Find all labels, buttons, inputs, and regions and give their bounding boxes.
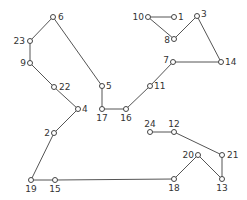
node-2 (52, 131, 57, 136)
node-label-20: 20 (183, 150, 195, 160)
node-label-9: 9 (20, 58, 26, 68)
node-21 (220, 153, 225, 158)
node-label-19: 19 (25, 184, 37, 194)
node-8 (172, 37, 177, 42)
node-13 (220, 177, 225, 182)
node-label-24: 24 (144, 119, 156, 129)
edge-6-23 (30, 17, 53, 41)
node-label-4: 4 (82, 104, 88, 114)
node-23 (28, 39, 33, 44)
node-label-5: 5 (106, 81, 112, 91)
nodes-group (28, 14, 225, 183)
node-15 (53, 178, 58, 183)
node-6 (51, 15, 56, 20)
node-18 (172, 177, 177, 182)
node-12 (172, 130, 177, 135)
node-24 (148, 130, 153, 135)
node-17 (100, 107, 105, 112)
node-7 (171, 60, 176, 65)
node-1 (172, 15, 177, 20)
node-label-2: 2 (44, 128, 50, 138)
node-label-3: 3 (201, 9, 207, 19)
labels-group: 623922421915182013211224517161171438101 (14, 9, 239, 194)
edge-9-22 (30, 63, 54, 87)
node-20 (196, 153, 201, 158)
node-label-11: 11 (154, 81, 165, 91)
node-label-17: 17 (96, 113, 107, 123)
node-label-7: 7 (163, 55, 169, 65)
edge-8-10 (148, 17, 174, 39)
node-19 (29, 178, 34, 183)
node-11 (148, 84, 153, 89)
edge-15-18 (55, 179, 174, 180)
node-10 (146, 15, 151, 20)
tour-diagram: 623922421915182013211224517161171438101 (0, 0, 247, 200)
node-label-22: 22 (59, 82, 70, 92)
edge-6-5 (53, 17, 102, 86)
edge-4-2 (54, 109, 78, 133)
node-label-12: 12 (168, 119, 179, 129)
edge-16-11 (126, 86, 150, 109)
node-label-15: 15 (49, 184, 60, 194)
node-label-23: 23 (14, 36, 25, 46)
node-14 (219, 60, 224, 65)
node-label-16: 16 (120, 113, 132, 123)
edge-21-12 (174, 132, 222, 155)
node-label-8: 8 (164, 35, 170, 45)
node-4 (76, 107, 81, 112)
node-label-6: 6 (58, 12, 64, 22)
node-label-18: 18 (168, 183, 180, 193)
node-5 (100, 84, 105, 89)
node-label-1: 1 (178, 12, 184, 22)
node-3 (195, 14, 200, 19)
node-label-21: 21 (227, 150, 238, 160)
edge-20-13 (198, 155, 222, 179)
edge-14-3 (197, 16, 221, 62)
node-9 (28, 61, 33, 66)
node-label-14: 14 (225, 57, 237, 67)
node-label-13: 13 (216, 183, 227, 193)
node-16 (124, 107, 129, 112)
edge-2-19 (31, 133, 54, 180)
node-label-10: 10 (133, 12, 145, 22)
node-22 (52, 85, 57, 90)
